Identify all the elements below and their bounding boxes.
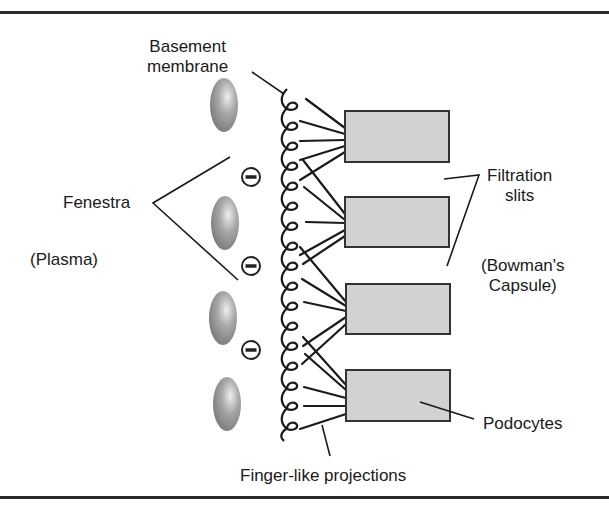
- podocyte: [345, 111, 449, 162]
- negative-charge-icon: [242, 341, 260, 359]
- endothelial-cells: [209, 78, 241, 431]
- basement-membrane-label: Basement membrane: [147, 37, 228, 77]
- finger-projections-leader: [322, 425, 330, 456]
- endothelial-cell: [210, 78, 238, 132]
- fenestra-label: Fenestra: [63, 193, 130, 213]
- basement-membrane-leader: [252, 72, 284, 94]
- endothelial-cell: [211, 196, 239, 250]
- endothelial-cell: [213, 377, 241, 431]
- finger-like-projections: [300, 99, 346, 429]
- podocytes-label: Podocytes: [483, 414, 562, 434]
- negative-charge-icon: [242, 257, 260, 275]
- negative-charge-icons: [242, 168, 260, 359]
- podocytes: [345, 111, 450, 421]
- finger-like-projections-label: Finger-like projections: [240, 466, 406, 486]
- podocyte: [346, 370, 450, 421]
- endothelial-cell: [209, 291, 237, 345]
- plasma-label: (Plasma): [30, 250, 98, 270]
- podocyte: [346, 284, 450, 334]
- basement-membrane: [281, 89, 297, 441]
- bowmans-capsule-label: (Bowman's Capsule): [481, 256, 565, 296]
- filtration-slits-label: Filtration slits: [487, 166, 552, 206]
- podocyte: [345, 197, 449, 247]
- negative-charge-icon: [242, 168, 260, 186]
